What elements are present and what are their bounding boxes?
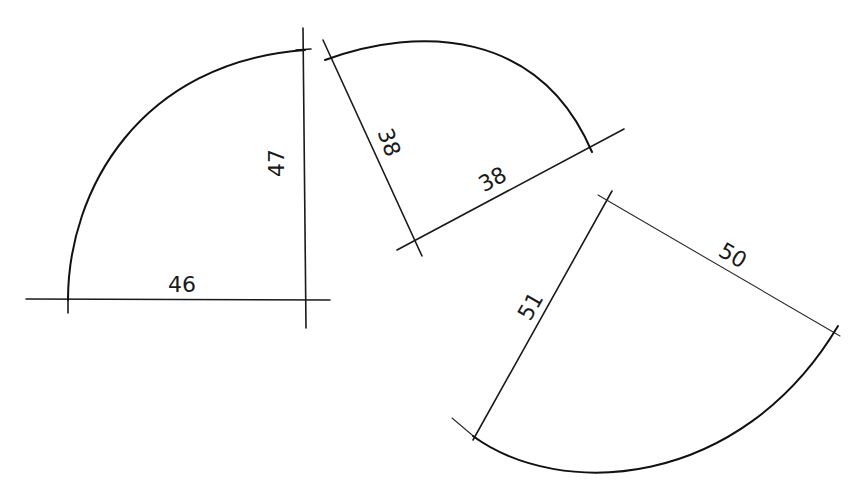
piece-1-bottom-edge	[26, 299, 330, 300]
piece-3: 51 50	[452, 191, 840, 473]
piece-2: 38 38	[323, 40, 624, 256]
piece-3-arc	[473, 326, 838, 473]
piece-3-top-label: 50	[714, 238, 751, 274]
piece-1: 46 47	[26, 28, 330, 328]
piece-2-left-label: 38	[373, 125, 406, 160]
piece-3-left-label: 51	[513, 288, 549, 325]
piece-1-bottom-label: 46	[168, 272, 196, 297]
piece-2-left-edge	[323, 40, 422, 256]
piece-1-right-edge	[303, 28, 306, 328]
diagram-canvas: 46 47 38 38 51 50	[0, 0, 865, 498]
diagram-svg: 46 47 38 38 51 50	[0, 0, 865, 498]
piece-2-arc	[325, 41, 592, 152]
piece-3-top-edge	[598, 195, 840, 336]
piece-1-right-label: 47	[264, 149, 289, 177]
piece-3-left-edge	[473, 191, 612, 440]
